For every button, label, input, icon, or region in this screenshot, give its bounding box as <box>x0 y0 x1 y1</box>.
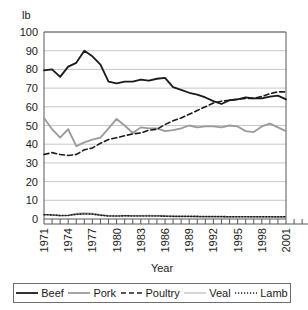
x-tick-label: 1977 <box>86 228 98 252</box>
line-chart-plot: 0102030405060708090100 19711974197719801… <box>0 0 308 282</box>
y-tick-label: 100 <box>20 26 38 38</box>
y-tick-label: 10 <box>26 194 38 206</box>
y-tick-label: 40 <box>26 138 38 150</box>
legend-label: Lamb <box>260 287 288 299</box>
x-tick-label: 1989 <box>183 228 195 252</box>
legend-swatch-beef-icon <box>16 289 38 297</box>
series-line-beef <box>44 51 286 104</box>
legend-swatch-lamb-icon <box>235 289 257 297</box>
y-tick-label: 80 <box>26 63 38 75</box>
x-tick-label: 1986 <box>159 228 171 252</box>
chart-container: lb 0102030405060708090100 19711974197719… <box>0 0 308 310</box>
legend-item-lamb[interactable]: Lamb <box>235 287 288 299</box>
x-tick-label: 1980 <box>111 228 123 252</box>
legend-swatch-veal-icon <box>184 289 206 297</box>
data-series-group <box>44 51 286 218</box>
x-tick-label: 1974 <box>62 228 74 252</box>
legend-item-pork[interactable]: Pork <box>68 287 116 299</box>
chart-legend: BeefPorkPoultryVealLamb <box>13 283 291 303</box>
y-tick-label: 90 <box>26 45 38 57</box>
series-line-poultry <box>44 92 286 156</box>
x-tick-label: 1971 <box>38 228 50 252</box>
x-axis-tick-marks <box>44 219 308 224</box>
x-tick-label: 2001 <box>280 228 292 252</box>
legend-item-poultry[interactable]: Poultry <box>121 287 180 299</box>
x-tick-label: 1998 <box>256 228 268 252</box>
legend-item-beef[interactable]: Beef <box>16 287 64 299</box>
y-tick-label: 70 <box>26 82 38 94</box>
x-tick-label: 1983 <box>135 228 147 252</box>
x-axis-tick-labels: 1971197419771980198319861989199219951998… <box>38 228 292 252</box>
legend-label: Poultry <box>146 287 180 299</box>
y-tick-label: 50 <box>26 120 38 132</box>
y-tick-label: 0 <box>32 213 38 225</box>
x-tick-label: 1992 <box>207 228 219 252</box>
legend-label: Pork <box>93 287 116 299</box>
x-tick-label: 1995 <box>232 228 244 252</box>
x-axis-title: Year <box>151 262 174 274</box>
legend-label: Veal <box>209 287 230 299</box>
legend-label: Beef <box>41 287 64 299</box>
legend-swatch-poultry-icon <box>121 289 143 297</box>
legend-item-veal[interactable]: Veal <box>184 287 230 299</box>
series-line-pork <box>44 118 286 146</box>
y-axis-tick-labels: 0102030405060708090100 <box>20 26 38 225</box>
legend-swatch-pork-icon <box>68 289 90 297</box>
y-tick-label: 60 <box>26 101 38 113</box>
y-tick-label: 30 <box>26 157 38 169</box>
y-tick-label: 20 <box>26 176 38 188</box>
